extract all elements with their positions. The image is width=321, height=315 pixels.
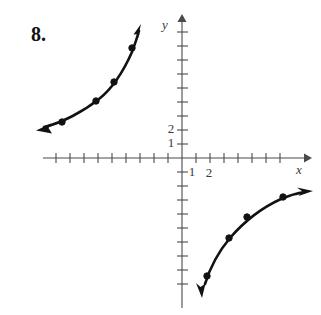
lower-right-branch-curve xyxy=(205,192,305,284)
y-axis-label: y xyxy=(160,17,168,32)
data-point xyxy=(204,273,210,279)
problem-number-label: 8. xyxy=(31,23,46,45)
upper-left-branch-group xyxy=(36,24,141,134)
figure-container: 8. xyxy=(0,0,321,315)
data-point xyxy=(129,45,135,51)
lower-right-branch-group xyxy=(196,188,313,299)
upper-left-branch-curve xyxy=(44,31,139,127)
data-point xyxy=(59,119,65,125)
x-axis-arrow-icon xyxy=(304,154,312,163)
y-tick-label-2: 2 xyxy=(168,121,175,136)
data-point xyxy=(280,194,286,200)
data-point xyxy=(226,235,232,241)
lower-branch-bottom-arrow-icon xyxy=(196,283,206,298)
y-tick-label-1: 1 xyxy=(168,135,175,150)
coordinate-graph-figure: 8. xyxy=(0,0,321,315)
data-point xyxy=(111,79,117,85)
x-tick-label-2: 2 xyxy=(206,165,213,180)
data-point xyxy=(244,214,250,220)
upper-branch-left-arrow-icon xyxy=(36,124,52,134)
x-axis-label: x xyxy=(295,162,302,177)
data-point xyxy=(93,98,99,104)
y-axis-arrow-icon xyxy=(178,14,187,22)
x-tick-label-1: 1 xyxy=(189,164,196,179)
axes-group xyxy=(43,14,312,308)
